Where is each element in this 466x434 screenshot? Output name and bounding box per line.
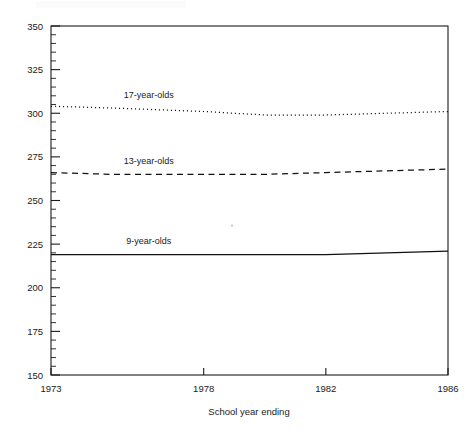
data-series-lines (51, 106, 448, 254)
plot-frame (51, 26, 448, 375)
plot-frame-group (51, 26, 448, 375)
y-axis-tick-label: 275 (27, 151, 43, 162)
y-axis-tick-label: 225 (27, 239, 43, 250)
x-axis-title: School year ending (208, 406, 289, 417)
data-series-labels: 17-year-olds13-year-olds9-year-olds (124, 90, 175, 247)
y-axis-tick-label: 300 (27, 108, 43, 119)
x-axis-tick-label: 1973 (40, 383, 61, 394)
series-line-9-year-olds (51, 251, 448, 254)
x-axis-tick-label: 1986 (437, 383, 458, 394)
chart-container: 150175200225250275300325350 197319781982… (0, 0, 466, 434)
series-line-13-year-olds (51, 169, 448, 174)
y-axis-tick-label: 350 (27, 21, 43, 32)
y-axis-tick-labels: 150175200225250275300325350 (27, 21, 43, 381)
y-axis-tick-label: 175 (27, 326, 43, 337)
x-axis-tick-label: 1982 (315, 383, 336, 394)
y-axis-tick-label: 325 (27, 64, 43, 75)
y-axis-tick-label: 150 (27, 370, 43, 381)
series-line-17-year-olds (51, 106, 448, 115)
series-label-13-year-olds: 13-year-olds (124, 156, 175, 166)
x-axis-tick-label: 1978 (193, 383, 214, 394)
y-axis-tick-label: 200 (27, 282, 43, 293)
x-axis-major-ticks (51, 368, 448, 375)
x-axis-tick-labels: 1973197819821986 (40, 383, 458, 394)
line-chart-svg: 150175200225250275300325350 197319781982… (0, 0, 466, 434)
series-label-9-year-olds: 9-year-olds (126, 236, 172, 246)
y-axis-tick-label: 250 (27, 195, 43, 206)
series-label-17-year-olds: 17-year-olds (124, 90, 175, 100)
